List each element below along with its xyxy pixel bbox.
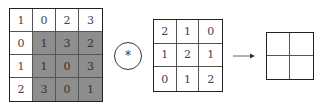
convolution-operator-icon: * <box>114 42 142 70</box>
matrix-cell: 3 <box>33 78 56 101</box>
matrix-cell: 2 <box>199 67 222 91</box>
matrix-cell: 3 <box>79 9 102 32</box>
matrix-cell: 2 <box>177 44 200 68</box>
matrix-cell: 1 <box>199 44 222 68</box>
matrix-cell: 1 <box>154 44 177 68</box>
matrix-cell: 1 <box>10 55 33 78</box>
matrix-cell: 3 <box>79 55 102 78</box>
matrix-cell: 1 <box>10 9 33 32</box>
input-matrix: 1023013211032301 <box>9 8 103 102</box>
right-arrow-icon <box>233 55 255 57</box>
matrix-cell: 0 <box>56 78 79 101</box>
matrix-cell <box>267 56 290 79</box>
matrix-cell: 1 <box>177 20 200 44</box>
matrix-cell: 1 <box>33 32 56 55</box>
matrix-cell: 0 <box>33 9 56 32</box>
matrix-cell: 2 <box>10 78 33 101</box>
matrix-cell: 2 <box>154 20 177 44</box>
matrix-cell: 1 <box>33 55 56 78</box>
matrix-cell <box>290 56 313 79</box>
matrix-cell: 2 <box>56 9 79 32</box>
matrix-cell: 1 <box>79 78 102 101</box>
matrix-cell: 1 <box>177 67 200 91</box>
matrix-cell: 0 <box>154 67 177 91</box>
matrix-cell: 3 <box>56 32 79 55</box>
matrix-cell: 0 <box>10 32 33 55</box>
matrix-cell <box>290 33 313 56</box>
matrix-cell: 2 <box>79 32 102 55</box>
output-matrix <box>266 32 314 80</box>
matrix-cell: 0 <box>199 20 222 44</box>
kernel-matrix: 210121012 <box>153 19 223 92</box>
matrix-cell <box>267 33 290 56</box>
matrix-cell: 0 <box>56 55 79 78</box>
operator-symbol: * <box>125 49 131 63</box>
